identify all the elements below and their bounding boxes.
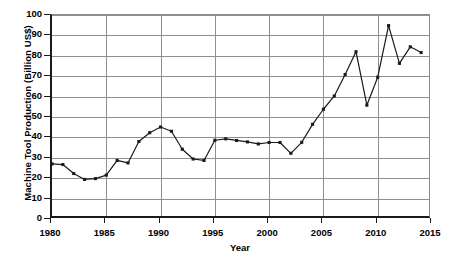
- x-axis-tick-label: 2000: [242, 227, 292, 238]
- y-axis-tick-label: 0: [0, 213, 42, 222]
- plot-area: [50, 14, 430, 218]
- data-point-marker: [235, 139, 238, 142]
- data-point-marker: [268, 141, 271, 144]
- data-point-marker: [170, 130, 173, 133]
- data-point-marker: [181, 148, 184, 151]
- x-axis-tick-label: 1990: [134, 227, 184, 238]
- x-axis-tick: [50, 218, 51, 223]
- data-point-marker: [50, 162, 53, 165]
- x-axis-tick: [267, 218, 268, 223]
- data-point-marker: [224, 137, 227, 140]
- y-axis-tick-label: 10: [0, 193, 42, 202]
- x-axis-tick-label: 2005: [296, 227, 346, 238]
- data-point-marker: [246, 140, 249, 143]
- y-axis-tick-label: 50: [0, 111, 42, 120]
- data-point-marker: [311, 123, 314, 126]
- data-point-marker: [398, 62, 401, 65]
- data-point-marker: [333, 94, 336, 97]
- data-point-marker: [409, 45, 412, 48]
- data-point-marker: [72, 172, 75, 175]
- y-axis-tick-label: 90: [0, 29, 42, 38]
- x-axis-tick: [213, 218, 214, 223]
- data-point-marker: [257, 142, 260, 145]
- y-axis-tick-label: 60: [0, 91, 42, 100]
- data-point-marker: [420, 51, 423, 54]
- data-point-marker: [322, 108, 325, 111]
- chart-figure: Machine Tool Production (Billion US$) 01…: [0, 0, 456, 267]
- data-point-marker: [137, 140, 140, 143]
- data-point-marker: [376, 76, 379, 79]
- data-series-machine-tool-production: [52, 15, 432, 219]
- x-axis-tick: [321, 218, 322, 223]
- data-point-marker: [159, 125, 162, 128]
- data-point-marker: [202, 159, 205, 162]
- y-axis-tick-label: 30: [0, 152, 42, 161]
- series-line: [52, 26, 421, 180]
- data-point-marker: [116, 159, 119, 162]
- x-axis-tick-label: 2015: [405, 227, 455, 238]
- data-point-marker: [192, 157, 195, 160]
- y-axis-tick-label: 20: [0, 172, 42, 181]
- x-axis-tick: [430, 218, 431, 223]
- x-axis-tick-label: 1995: [188, 227, 238, 238]
- data-point-marker: [83, 178, 86, 181]
- x-axis-tick: [376, 218, 377, 223]
- data-point-marker: [365, 104, 368, 107]
- x-axis-tick: [159, 218, 160, 223]
- x-axis-tick: [104, 218, 105, 223]
- data-point-marker: [105, 174, 108, 177]
- x-axis-title: Year: [50, 242, 430, 253]
- data-point-marker: [300, 141, 303, 144]
- data-point-marker: [344, 73, 347, 76]
- data-point-marker: [213, 139, 216, 142]
- x-axis-tick-label: 2010: [351, 227, 401, 238]
- y-axis-tick-label: 100: [0, 9, 42, 18]
- data-point-marker: [278, 141, 281, 144]
- data-point-marker: [148, 131, 151, 134]
- data-point-marker: [289, 152, 292, 155]
- y-axis-tick-label: 40: [0, 131, 42, 140]
- y-axis-tick-label: 70: [0, 70, 42, 79]
- x-axis-tick-label: 1980: [25, 227, 75, 238]
- data-point-marker: [387, 24, 390, 27]
- y-axis-tick-label: 80: [0, 50, 42, 59]
- figure-caption: [18, 259, 438, 267]
- x-axis-tick-label: 1985: [79, 227, 129, 238]
- data-point-marker: [61, 163, 64, 166]
- data-point-marker: [94, 177, 97, 180]
- data-point-marker: [126, 161, 129, 164]
- data-point-marker: [354, 50, 357, 53]
